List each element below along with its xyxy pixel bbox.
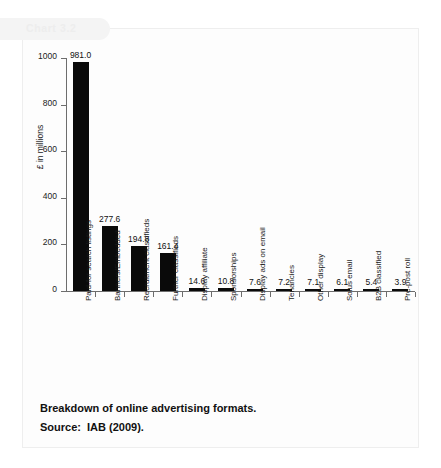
y-axis-tick: 600	[61, 151, 66, 152]
x-axis-tick	[299, 292, 300, 297]
y-axis-tick: 200	[61, 244, 66, 245]
y-axis-tick: 0	[61, 291, 66, 292]
category-label: Sponsorships	[229, 253, 238, 301]
bar-value-label: 277.6	[99, 214, 120, 224]
x-axis-tick	[357, 292, 358, 297]
x-axis-tick	[124, 292, 125, 297]
y-axis-tick-label: 200	[43, 237, 57, 247]
x-axis-tick	[241, 292, 242, 297]
y-axis-tick-label: 1000	[38, 51, 57, 61]
category-label: Display ads on email	[258, 227, 267, 301]
bar-value-label: 981.0	[70, 50, 91, 60]
x-axis-tick	[386, 292, 387, 297]
x-axis-tick	[182, 292, 183, 297]
caption-source: Source: IAB (2009).	[40, 418, 400, 437]
x-axis-tick	[270, 292, 271, 297]
y-axis-tick-label: 0	[52, 284, 57, 294]
y-axis-tick-label: 600	[43, 144, 57, 154]
plot-area: £ in millions 02004006008001000 981.0277…	[66, 58, 415, 292]
y-axis-tick: 800	[61, 105, 66, 106]
x-axis-tick	[95, 292, 96, 297]
caption-title: Breakdown of online advertising formats.	[40, 399, 400, 418]
x-axis-tick	[211, 292, 212, 297]
category-label: Recruitment classifieds	[142, 219, 151, 301]
category-label: Paid-for search listings	[84, 220, 93, 301]
category-label: Display affiliate	[200, 247, 209, 301]
category-label: Tenancies	[287, 265, 296, 301]
category-label: Banners/Embedded	[113, 230, 122, 301]
y-axis-tick-label: 800	[43, 98, 57, 108]
category-label: Solus email	[345, 260, 354, 301]
y-axis-tick-label: 400	[43, 191, 57, 201]
x-axis-tick	[328, 292, 329, 297]
figure-caption: Breakdown of online advertising formats.…	[40, 399, 400, 437]
category-label: Other display	[316, 254, 325, 301]
category-label: B2B classified	[374, 251, 383, 301]
x-axis-tick	[153, 292, 154, 297]
chart-number-label: Chart 3.2	[26, 22, 76, 34]
category-label: Pre-post roll	[403, 258, 412, 301]
y-axis-tick: 1000	[61, 58, 66, 59]
chart-page: Chart 3.2 £ in millions 0200400600800100…	[0, 0, 441, 468]
category-label: Further classifieds	[171, 236, 180, 301]
y-axis-line	[66, 58, 67, 292]
x-axis-tick	[415, 292, 416, 297]
y-axis-tick: 400	[61, 198, 66, 199]
